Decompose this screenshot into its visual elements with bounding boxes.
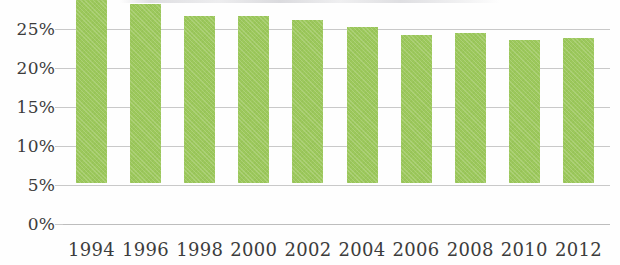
y-axis-tick-label: 20% (3, 60, 55, 77)
bar-chart: 25%20%15%10%5%0% 19941996199820002002200… (0, 0, 620, 265)
x-axis-tick-label: 2008 (435, 241, 505, 259)
bar (455, 33, 486, 183)
bar (238, 16, 269, 183)
y-axis-tick (55, 29, 63, 30)
bar (563, 38, 594, 183)
x-axis-tick-label: 2004 (327, 241, 397, 259)
y-axis-tick-label: 25% (3, 21, 55, 38)
bar (76, 0, 107, 183)
x-axis-tick-label: 1994 (57, 241, 127, 259)
bar-series (63, 0, 610, 224)
x-axis-tick-label: 2006 (381, 241, 451, 259)
y-axis-tick-label: 15% (3, 99, 55, 116)
y-axis-tick-label: 5% (3, 177, 55, 194)
y-axis-tick (55, 107, 63, 108)
x-axis-tick-label: 2002 (273, 241, 343, 259)
x-axis-tick-label: 1996 (111, 241, 181, 259)
y-axis-tick (55, 224, 63, 225)
bar (401, 35, 432, 183)
x-axis-tick-label: 2000 (219, 241, 289, 259)
y-axis-tick (55, 146, 63, 147)
x-axis-tick-label: 2012 (543, 241, 613, 259)
bar (184, 16, 215, 183)
bar (292, 20, 323, 183)
x-axis-tick-label: 1998 (165, 241, 235, 259)
x-axis-tick-label: 2010 (489, 241, 559, 259)
y-axis-tick-label: 10% (3, 138, 55, 155)
y-axis: 25%20%15%10%5%0% (0, 29, 55, 224)
y-axis-tick (55, 68, 63, 69)
axis-baseline (63, 224, 610, 225)
bar (509, 40, 540, 183)
bar (347, 27, 378, 183)
y-axis-tick-label: 0% (3, 216, 55, 233)
y-axis-tick (55, 185, 63, 186)
bar (130, 4, 161, 183)
